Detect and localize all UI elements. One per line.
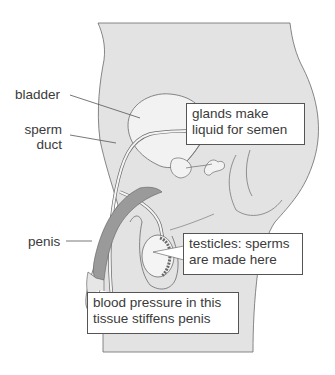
penis-label: penis xyxy=(28,234,60,249)
testicles-callout-line2: are made here xyxy=(189,252,297,268)
glands-callout-line1: glands make xyxy=(192,106,299,122)
erectile-tissue-callout-line2: tissue stiffens penis xyxy=(93,311,233,327)
testicles-callout: testicles: sperms are made here xyxy=(183,233,303,275)
bladder-label: bladder xyxy=(15,87,60,102)
glands-callout-line2: liquid for semen xyxy=(192,122,299,138)
sperm-duct-label: sperm duct xyxy=(20,122,62,152)
erectile-tissue-callout-line1: blood pressure in this xyxy=(93,295,233,311)
sperm-duct-label-line2: duct xyxy=(20,137,62,152)
glands-callout: glands make liquid for semen xyxy=(186,103,305,145)
testicles-callout-line1: testicles: sperms xyxy=(189,236,297,252)
sperm-duct-label-line1: sperm xyxy=(20,122,62,137)
erectile-tissue-callout: blood pressure in this tissue stiffens p… xyxy=(87,292,239,334)
